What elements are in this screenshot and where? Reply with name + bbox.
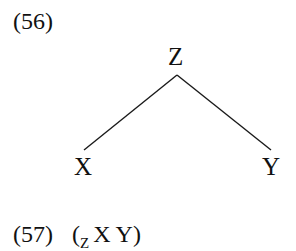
labeled-bracketing: (ZX Y) [72,222,141,246]
bracket-label-subscript: Z [80,235,89,251]
close-paren: ) [133,221,141,247]
tree-node-left-child: X [74,154,92,179]
open-paren: ( [72,221,80,247]
branch-right [177,75,271,150]
tree-node-root: Z [168,44,183,69]
example-number: (57) [13,222,53,246]
branch-left [84,75,177,150]
tree-node-right-child: Y [262,154,280,179]
bracket-content: X Y [93,221,133,247]
